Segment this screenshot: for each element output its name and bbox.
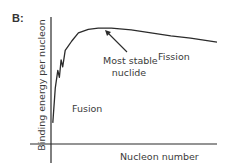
chart-svg <box>0 0 229 167</box>
annotation-fusion: Fusion <box>72 103 102 115</box>
annotation-arrow <box>107 32 127 52</box>
annotation-most-stable: Most stable nuclide <box>103 55 155 79</box>
x-axis-label: Nucleon number <box>120 151 199 163</box>
annotation-most-stable-line1: Most stable <box>103 55 155 67</box>
y-axis-label: Binding energy per nucleon <box>36 19 47 150</box>
annotation-most-stable-line2: nuclide <box>103 67 155 79</box>
annotation-fission: Fission <box>158 51 190 63</box>
